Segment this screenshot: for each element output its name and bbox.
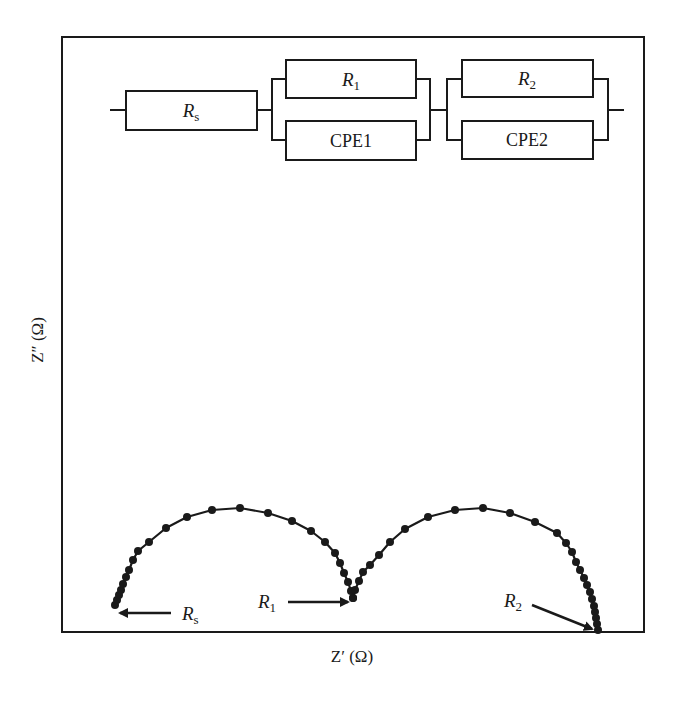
data-point: [349, 594, 357, 602]
data-point: [572, 558, 580, 566]
data-point: [576, 566, 584, 574]
x-axis-label: Z′ (Ω): [331, 647, 373, 666]
annotation-r2: R2: [503, 590, 522, 614]
data-point: [479, 504, 487, 512]
data-point: [134, 547, 142, 555]
data-point: [119, 580, 127, 588]
data-point: [321, 538, 329, 546]
y-axis-label: Z″ (Ω): [28, 317, 47, 363]
label-cpe2: CPE2: [506, 130, 548, 150]
data-point: [386, 538, 394, 546]
arrow-r2: [532, 605, 592, 629]
data-point: [568, 548, 576, 556]
data-point: [506, 509, 514, 517]
parallel2-left-bracket: [447, 79, 462, 140]
data-point: [162, 524, 170, 532]
annotation-rs: Rs: [181, 603, 199, 627]
data-point: [264, 509, 272, 517]
parallel2-right-bracket: [593, 79, 608, 140]
data-point: [336, 559, 344, 567]
data-point: [331, 549, 339, 557]
data-point: [340, 569, 348, 577]
data-point: [129, 556, 137, 564]
data-point: [580, 574, 588, 582]
data-point: [359, 568, 367, 576]
data-point: [366, 561, 374, 569]
data-point: [183, 513, 191, 521]
data-point: [562, 539, 570, 547]
data-point: [594, 626, 602, 634]
annotation-r1: R1: [257, 591, 276, 615]
data-point: [401, 525, 409, 533]
data-point: [122, 573, 130, 581]
semicircle-1-line: [115, 508, 353, 605]
data-point: [125, 566, 133, 574]
data-point: [145, 538, 153, 546]
data-point: [451, 506, 459, 514]
data-point: [531, 518, 539, 526]
parallel1-right-bracket: [416, 79, 430, 140]
data-point: [583, 581, 591, 589]
data-point: [344, 578, 352, 586]
data-point: [351, 586, 359, 594]
data-point: [288, 517, 296, 525]
data-point: [588, 595, 596, 603]
parallel1-left-bracket: [272, 79, 286, 140]
data-point: [553, 529, 561, 537]
data-point: [586, 588, 594, 596]
data-point: [236, 504, 244, 512]
semicircle-2-line: [353, 508, 598, 630]
data-point: [307, 527, 315, 535]
data-point: [208, 506, 216, 514]
data-point: [375, 551, 383, 559]
label-cpe1: CPE1: [330, 131, 372, 151]
nyquist-figure: Rs R1 CPE1 R2 CPE2 Rs R1 R2 Z′ (Ω) Z″ (Ω…: [0, 0, 681, 701]
data-point: [355, 577, 363, 585]
data-point: [424, 513, 432, 521]
